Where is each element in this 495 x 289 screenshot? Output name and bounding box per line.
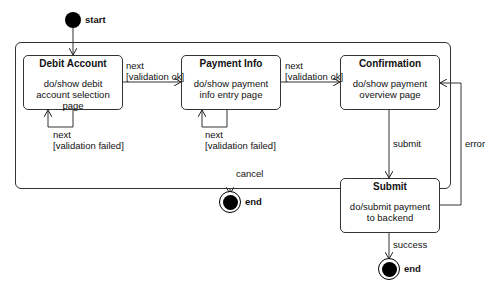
state-title: Debit Account <box>24 58 122 69</box>
state-activity: do/show payment overview page <box>341 78 439 100</box>
state-title: Payment Info <box>182 58 280 69</box>
state-activity: do/show payment info entry page <box>182 78 280 100</box>
transition-label-debit-self: next [validation failed] <box>53 129 124 151</box>
transition-label-payment-to-confirm: next [validation ok] <box>285 60 343 82</box>
state-submit: Submit do/submit payment to backend <box>340 178 440 233</box>
initial-state-node <box>65 12 81 28</box>
state-debit-account: Debit Account do/show debit account sele… <box>23 55 123 110</box>
final-state-dot <box>382 262 397 277</box>
final-state-cancel <box>219 191 241 213</box>
state-activity: do/submit payment to backend <box>341 201 439 223</box>
state-confirmation: Confirmation do/show payment overview pa… <box>340 55 440 110</box>
state-payment-info: Payment Info do/show payment info entry … <box>181 55 281 110</box>
transition-label-error: error <box>465 138 485 149</box>
final-state-dot <box>223 195 238 210</box>
transition-label-success: success <box>393 239 427 250</box>
final-state-success <box>378 258 400 280</box>
transition-label-payment-self: next [validation failed] <box>205 129 276 151</box>
final-state-label-cancel: end <box>245 196 262 207</box>
transition-label-debit-to-payment: next [validation ok] <box>126 60 184 82</box>
state-title: Submit <box>341 181 439 192</box>
transition-label-submit: submit <box>393 138 421 149</box>
state-activity: do/show debit account selection page <box>24 78 122 111</box>
final-state-label-success: end <box>404 263 421 274</box>
transition-label-cancel: cancel <box>236 168 263 179</box>
state-title: Confirmation <box>341 58 439 69</box>
initial-state-label: start <box>85 14 106 25</box>
